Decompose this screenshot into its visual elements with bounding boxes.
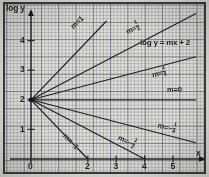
figure-border [3,2,206,174]
figure-container: log y x 4 3 2 1 0 2 3 4 5 log y = mx + 2… [0,0,209,177]
